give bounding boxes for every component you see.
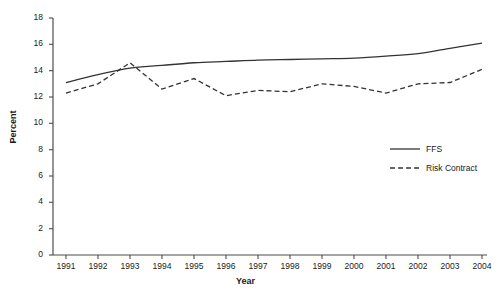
series-line-ffs (66, 43, 482, 82)
y-axis-tick-label: 2 (19, 224, 43, 233)
y-axis-tick-label: 16 (19, 39, 43, 48)
x-axis-title: Year (0, 276, 491, 286)
legend-label-risk-contract: Risk Contract (426, 163, 477, 173)
y-axis-tick-label: 18 (19, 13, 43, 22)
x-axis-tick-label: 2004 (462, 262, 496, 271)
y-axis-tick-label: 6 (19, 171, 43, 180)
y-axis-tick-label: 0 (19, 250, 43, 259)
y-axis-tick-label: 12 (19, 92, 43, 101)
y-axis-tick-label: 4 (19, 197, 43, 206)
y-axis-tick-label: 10 (19, 118, 43, 127)
x-axis-ticks (66, 255, 482, 259)
y-axis-tick-label: 8 (19, 145, 43, 154)
y-axis-tick-label: 14 (19, 66, 43, 75)
y-axis-title: Percent (8, 87, 18, 167)
legend-label-ffs: FFS (426, 144, 442, 154)
